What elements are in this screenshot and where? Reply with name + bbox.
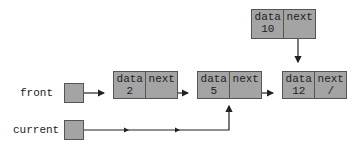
next-cell: next — [229, 72, 261, 98]
data-cell: data 10 — [252, 10, 283, 38]
data-header: data — [252, 11, 283, 23]
current-arrow — [73, 106, 229, 133]
data-cell: data 5 — [198, 72, 229, 98]
data-value: 10 — [252, 23, 283, 35]
data-header: data — [283, 73, 314, 85]
next-header: next — [315, 73, 346, 85]
next-cell: next — [145, 72, 177, 98]
front-label: front — [20, 87, 53, 100]
node-5: data 5 next — [197, 71, 262, 99]
next-header: next — [230, 73, 261, 85]
current-pointer-box — [64, 120, 84, 140]
data-cell: data 2 — [114, 72, 145, 98]
next-cell: next — [283, 10, 315, 38]
current-label: current — [13, 124, 59, 137]
next-header: next — [146, 73, 177, 85]
data-header: data — [114, 73, 145, 85]
data-cell: data 12 — [283, 72, 314, 98]
node-2: data 2 next — [113, 71, 178, 99]
null-next-value: / — [315, 85, 346, 97]
data-value: 12 — [283, 85, 314, 97]
next-header: next — [284, 11, 315, 23]
data-value: 5 — [198, 85, 229, 97]
data-value: 2 — [114, 85, 145, 97]
node-10: data 10 next — [251, 9, 316, 39]
data-header: data — [198, 73, 229, 85]
front-pointer-box — [64, 83, 84, 103]
next-cell: next / — [314, 72, 346, 98]
node-12: data 12 next / — [282, 71, 347, 99]
